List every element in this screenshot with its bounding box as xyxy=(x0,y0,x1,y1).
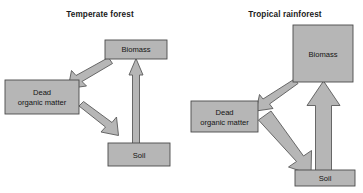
panel-title-temperate: Temperate forest xyxy=(66,10,134,19)
box-temperate-dead-organic-matter: Dead organic matter xyxy=(5,80,79,114)
box-temperate-dead-organic-matter-label-line2: organic matter xyxy=(18,98,67,107)
box-tropical-biomass-label: Biomass xyxy=(308,50,337,59)
box-tropical-dead-organic-matter-rect xyxy=(191,101,258,132)
arrow-tropical-soil-to-biomass xyxy=(307,81,340,171)
arrow-temperate-soil-to-biomass xyxy=(129,59,143,144)
panel-temperate-forest: Temperate forest Biomass Dead organic ma… xyxy=(5,10,170,166)
box-tropical-dead-organic-matter-label-line1: Dead xyxy=(215,108,233,117)
panel-title-tropical: Tropical rainforest xyxy=(248,10,322,19)
forest-nutrient-cycle-diagram: Temperate forest Biomass Dead organic ma… xyxy=(0,0,363,193)
box-tropical-soil: Soil xyxy=(295,170,355,186)
arrow-tropical-biomass-to-dead-organic-matter xyxy=(256,79,298,111)
box-tropical-soil-label: Soil xyxy=(319,174,332,183)
box-temperate-soil: Soil xyxy=(108,143,170,166)
box-tropical-biomass: Biomass xyxy=(293,25,353,82)
box-tropical-dead-organic-matter: Dead organic matter xyxy=(191,101,258,132)
box-temperate-biomass: Biomass xyxy=(105,40,167,59)
arrow-tropical-dead-organic-matter-to-soil xyxy=(259,111,312,175)
box-tropical-dead-organic-matter-label-line2: organic matter xyxy=(200,118,249,127)
box-temperate-biomass-label: Biomass xyxy=(121,45,150,54)
panel-tropical-rainforest: Tropical rainforest Biomass Dead organic… xyxy=(191,10,355,186)
arrow-temperate-dead-organic-matter-to-soil xyxy=(79,102,119,136)
box-temperate-soil-label: Soil xyxy=(133,151,146,160)
box-temperate-dead-organic-matter-label-line1: Dead xyxy=(33,88,51,97)
